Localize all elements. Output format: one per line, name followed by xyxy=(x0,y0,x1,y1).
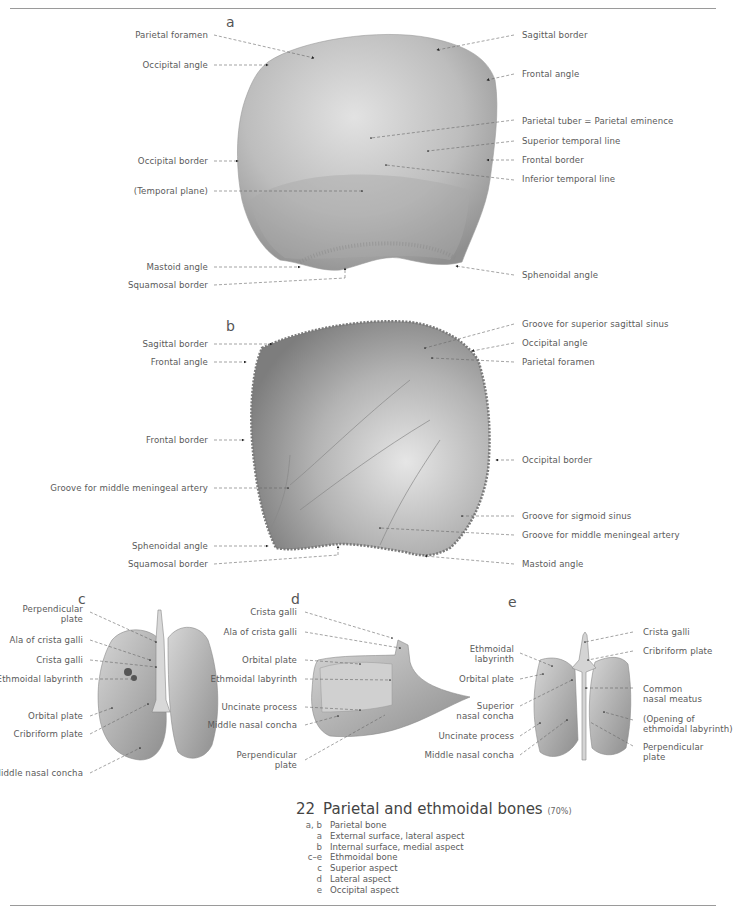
label-middle-nasal-concha: Middle nasal concha xyxy=(0,768,83,778)
label-inferior-temporal-line: Inferior temporal line xyxy=(522,174,615,184)
label-groove-superior-sagittal-sinus: Groove for superior sagittal sinus xyxy=(522,319,669,329)
label-parietal-tuber: Parietal tuber = Parietal eminence xyxy=(522,116,673,126)
label-middle-nasal-concha: Middle nasal concha xyxy=(425,750,514,760)
label-opening-ethmoidal-labyrinth: (Opening of ethmoidal labyrinth) xyxy=(643,714,735,734)
label-parietal-foramen: Parietal foramen xyxy=(135,30,208,40)
label-perpendicular-plate: Perpendicular plate xyxy=(13,604,83,624)
label-common-nasal-meatus: Common nasal meatus xyxy=(643,684,703,704)
label-ala-crista-galli: Ala of crista galli xyxy=(223,627,297,637)
label-middle-nasal-concha: Middle nasal concha xyxy=(208,720,297,730)
label-sagittal-border: Sagittal border xyxy=(142,339,208,349)
label-perpendicular-plate: Perpendicular plate xyxy=(227,750,297,770)
label-frontal-border: Frontal border xyxy=(522,155,584,165)
label-squamosal-border: Squamosal border xyxy=(128,559,208,569)
label-ethmoidal-labyrinth: Ethmoidal labyrinth xyxy=(211,674,297,684)
legend-row: aExternal surface, lateral aspect xyxy=(296,831,572,842)
label-ethmoidal-labyrinth: Ethmoidal labyrinth xyxy=(0,674,83,684)
label-sphenoidal-angle: Sphenoidal angle xyxy=(132,541,208,551)
label-mastoid-angle: Mastoid angle xyxy=(522,559,584,569)
ethmoid-superior-illustration xyxy=(98,610,218,760)
figure-legend: a, bParietal bone aExternal surface, lat… xyxy=(296,820,572,896)
label-occipital-angle: Occipital angle xyxy=(142,60,208,70)
illustration-canvas xyxy=(0,0,736,918)
parietal-bone-external-illustration xyxy=(237,34,496,270)
legend-row: cSuperior aspect xyxy=(296,863,572,874)
label-uncinate-process: Uncinate process xyxy=(438,731,514,741)
label-perpendicular-plate: Perpendicular plate xyxy=(643,742,703,762)
figure-title: 22Parietal and ethmoidal bones (70%) xyxy=(296,800,572,818)
label-groove-middle-meningeal-artery: Groove for middle meningeal artery xyxy=(522,530,680,540)
label-groove-sigmoid-sinus: Groove for sigmoid sinus xyxy=(522,511,631,521)
panel-b-letter: b xyxy=(226,318,235,334)
figure-number: 22 xyxy=(296,800,315,818)
ethmoid-lateral-illustration xyxy=(312,640,470,737)
label-cribriform-plate: Cribriform plate xyxy=(643,646,712,656)
label-crista-galli: Crista galli xyxy=(36,655,83,665)
label-crista-galli: Crista galli xyxy=(643,627,690,637)
legend-row: c–eEthmoidal bone xyxy=(296,852,572,863)
panel-d-letter: d xyxy=(291,591,300,607)
label-orbital-plate: Orbital plate xyxy=(28,711,83,721)
label-groove-middle-meningeal-artery: Groove for middle meningeal artery xyxy=(50,483,208,493)
label-orbital-plate: Orbital plate xyxy=(459,674,514,684)
label-squamosal-border: Squamosal border xyxy=(128,280,208,290)
figure-scale: (70%) xyxy=(547,807,571,816)
legend-row: eOccipital aspect xyxy=(296,885,572,896)
parietal-bone-internal-illustration xyxy=(251,321,489,555)
label-superior-nasal-concha: Superior nasal concha xyxy=(454,701,514,721)
label-temporal-plane: (Temporal plane) xyxy=(134,186,208,196)
label-occipital-border: Occipital border xyxy=(138,156,208,166)
label-superior-temporal-line: Superior temporal line xyxy=(522,136,620,146)
label-frontal-border: Frontal border xyxy=(146,435,208,445)
figure-caption: 22Parietal and ethmoidal bones (70%) a, … xyxy=(296,800,572,896)
label-orbital-plate: Orbital plate xyxy=(242,655,297,665)
legend-row: bInternal surface, medial aspect xyxy=(296,842,572,853)
label-ala-crista-galli: Ala of crista galli xyxy=(9,635,83,645)
legend-row: a, bParietal bone xyxy=(296,820,572,831)
panel-e-letter: e xyxy=(508,594,517,610)
label-parietal-foramen: Parietal foramen xyxy=(522,357,595,367)
ethmoid-occipital-illustration xyxy=(534,632,631,760)
label-sphenoidal-angle: Sphenoidal angle xyxy=(522,270,598,280)
figure-title-text: Parietal and ethmoidal bones xyxy=(323,800,543,818)
label-frontal-angle: Frontal angle xyxy=(151,357,208,367)
label-cribriform-plate: Cribriform plate xyxy=(14,729,83,739)
label-occipital-border: Occipital border xyxy=(522,455,592,465)
label-crista-galli: Crista galli xyxy=(250,607,297,617)
label-uncinate-process: Uncinate process xyxy=(221,702,297,712)
label-occipital-angle: Occipital angle xyxy=(522,338,588,348)
label-sagittal-border: Sagittal border xyxy=(522,30,588,40)
legend-row: dLateral aspect xyxy=(296,874,572,885)
label-ethmoidal-labyrinth: Ethmoidal labyrinth xyxy=(454,644,514,664)
panel-a-letter: a xyxy=(226,14,235,30)
label-mastoid-angle: Mastoid angle xyxy=(146,262,208,272)
label-frontal-angle: Frontal angle xyxy=(522,69,579,79)
